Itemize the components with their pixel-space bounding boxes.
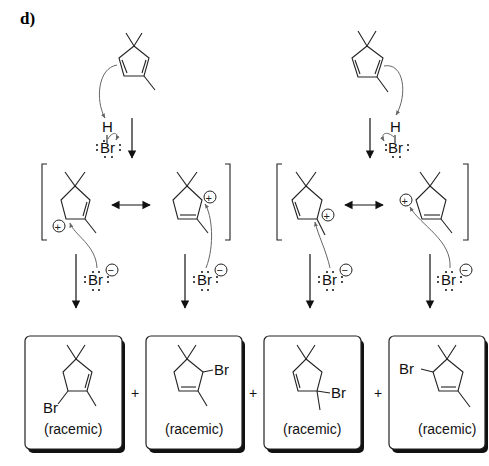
curly-arrow-pi-to-H-left xyxy=(99,65,117,118)
panel-label: d) xyxy=(20,9,35,28)
bromide-ion: Br xyxy=(322,271,337,288)
negative-charge: − xyxy=(462,264,468,276)
bromide-ion: Br xyxy=(197,271,212,288)
bromide-ion: Br xyxy=(441,271,456,288)
allylic-cation-1: + xyxy=(53,172,96,233)
racemic-label: (racemic) xyxy=(165,421,223,437)
hydrogen-atom: H xyxy=(102,118,113,135)
positive-charge: + xyxy=(402,195,408,207)
negative-charge: − xyxy=(342,264,348,276)
bromide-attack-2: Br − xyxy=(193,204,227,291)
bracket-close-right xyxy=(463,164,468,240)
bromine-substituent: Br xyxy=(331,384,346,401)
starting-diene-right xyxy=(352,31,388,92)
plus-sign: + xyxy=(249,385,257,401)
product-box-2: Br (racemic) xyxy=(146,336,245,453)
product-box-3: Br (racemic) xyxy=(264,336,364,453)
starting-diene-left xyxy=(119,33,155,90)
allylic-cation-3: + xyxy=(292,172,334,235)
bromine-substituent: Br xyxy=(43,399,58,416)
hydrogen-atom: H xyxy=(390,118,401,135)
plus-sign: + xyxy=(374,385,382,401)
bracket-open-right xyxy=(277,164,282,240)
product-box-1: Br (racemic) xyxy=(25,336,125,453)
bracket-close-left xyxy=(225,164,230,240)
bromine-atom: Br xyxy=(388,139,403,156)
bromide-attack-3: Br − xyxy=(315,222,352,291)
racemic-label: (racemic) xyxy=(44,421,102,437)
bromide-attack-1: Br − xyxy=(70,223,118,291)
bromine-substituent: Br xyxy=(214,361,229,378)
negative-charge: − xyxy=(217,264,223,276)
allylic-cation-4: + xyxy=(400,172,452,233)
positive-charge: + xyxy=(55,221,61,233)
positive-charge: + xyxy=(206,192,212,204)
positive-charge: + xyxy=(324,210,330,222)
reaction-mechanism-diagram: d) H Br H Br xyxy=(0,0,489,466)
product-box-4: Br (racemic) xyxy=(389,336,488,453)
bromine-atom: Br xyxy=(100,139,115,156)
plus-sign: + xyxy=(131,385,139,401)
racemic-label: (racemic) xyxy=(418,421,476,437)
negative-charge: − xyxy=(108,264,114,276)
bracket-open-left xyxy=(42,164,47,240)
hbr-left: H Br xyxy=(96,118,121,158)
bromide-ion: Br xyxy=(88,271,103,288)
allylic-cation-2: + xyxy=(173,172,216,233)
bromine-substituent: Br xyxy=(399,360,414,377)
hbr-right: H Br xyxy=(383,118,409,158)
racemic-label: (racemic) xyxy=(283,421,341,437)
